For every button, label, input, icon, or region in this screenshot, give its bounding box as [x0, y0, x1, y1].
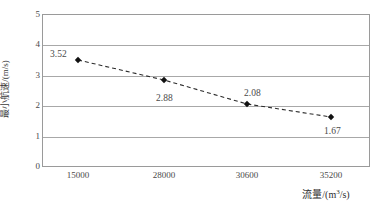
x-tick-label-0: 15000 — [53, 170, 103, 180]
gridline-1 — [43, 137, 369, 138]
y-tick-label-3: 3 — [26, 71, 40, 80]
chart-container: 最小航速/(m/s) 5 4 3 2 1 0 3.52 2.88 2.08 1.… — [0, 0, 384, 206]
y-tick-label-5: 5 — [26, 10, 40, 19]
plot-area — [42, 14, 370, 167]
gridline-2 — [43, 106, 369, 107]
data-label-3: 1.67 — [324, 126, 341, 136]
data-label-1: 2.88 — [156, 93, 173, 103]
x-axis-title: 流量/(m3/s) — [272, 186, 380, 201]
y-tick-label-1: 1 — [26, 132, 40, 141]
gridline-4 — [43, 45, 369, 46]
x-tick-label-2: 30600 — [222, 170, 272, 180]
x-axis-title-tail: /s) — [340, 189, 350, 200]
y-tick-label-2: 2 — [26, 101, 40, 110]
x-tick-label-1: 28000 — [139, 170, 189, 180]
gridline-3 — [43, 76, 369, 77]
y-tick-label-0: 0 — [26, 162, 40, 171]
data-label-0: 3.52 — [50, 49, 67, 59]
data-label-2: 2.08 — [244, 88, 261, 98]
x-axis-title-main: 流量/(m — [302, 189, 336, 200]
x-tick-label-3: 35200 — [306, 170, 356, 180]
y-axis-title: 最小航速/(m/s) — [0, 26, 12, 152]
y-tick-label-4: 4 — [26, 40, 40, 49]
